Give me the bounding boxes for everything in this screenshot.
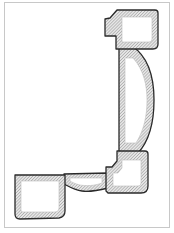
- top-block: [105, 10, 158, 49]
- linkage-drawing: [0, 0, 174, 233]
- arched-link: [119, 46, 154, 153]
- connecting-bar: [64, 173, 108, 191]
- lower-left-block: [15, 175, 65, 219]
- lower-right-block: [106, 151, 148, 193]
